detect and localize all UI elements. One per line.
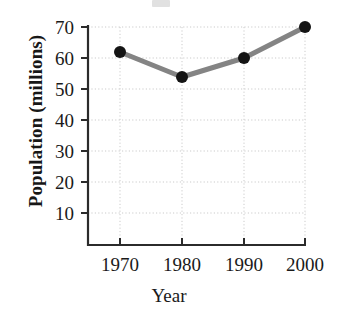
y-axis-title: Population (millions) xyxy=(25,11,47,231)
x-tick-label-1970: 1970 xyxy=(89,255,151,274)
data-point-1970 xyxy=(114,46,126,58)
data-point-1990 xyxy=(238,52,250,64)
data-point-markers xyxy=(114,21,311,83)
population-line-chart-figure: 70 60 50 40 30 20 10 1970 1980 1990 2000… xyxy=(0,0,338,319)
x-axis-title: Year xyxy=(0,285,338,307)
x-tick-label-1980: 1980 xyxy=(151,255,213,274)
x-tick-label-2000: 2000 xyxy=(274,255,336,274)
x-tick-label-1990: 1990 xyxy=(213,255,275,274)
vertical-gridlines xyxy=(120,27,305,245)
data-line-population xyxy=(120,27,305,77)
data-point-1980 xyxy=(176,71,188,83)
data-point-2000 xyxy=(299,21,311,33)
